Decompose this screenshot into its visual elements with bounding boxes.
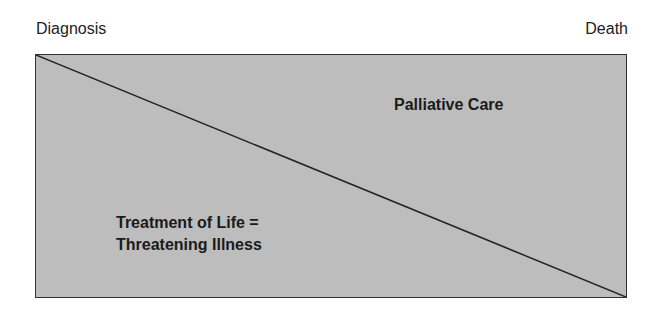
diagonal-divider [36, 55, 626, 297]
treatment-label-line2: Threatening Illness [116, 234, 262, 256]
timeline-end-label: Death [585, 20, 628, 38]
care-continuum-box: Palliative Care Treatment of Life = Thre… [35, 54, 627, 298]
palliative-care-label: Palliative Care [394, 94, 503, 116]
treatment-label: Treatment of Life = Threatening Illness [116, 212, 262, 256]
treatment-label-line1: Treatment of Life = [116, 212, 262, 234]
timeline-start-label: Diagnosis [36, 20, 106, 38]
